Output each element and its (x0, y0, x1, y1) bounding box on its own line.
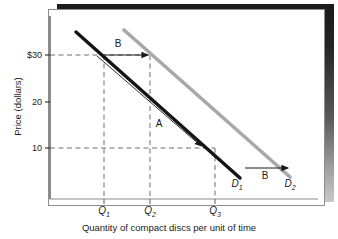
y-axis-title: Price (dollars) (12, 52, 23, 162)
x-tick-label-q3-sub: 3 (217, 211, 221, 218)
curve-label-d1: D1 (231, 178, 242, 191)
annotation-label-b-lower: B (262, 170, 269, 181)
demand-curve-d2 (124, 30, 290, 177)
x-tick-label-q3-text: Q (209, 205, 217, 216)
x-tick-label-q2: Q2 (144, 205, 156, 218)
curve-label-d2: D2 (284, 178, 295, 191)
x-axis-ticks (104, 199, 215, 204)
curve-label-d1-sub: 1 (239, 184, 243, 191)
demand-shift-figure: $30 20 10 Q1 Q2 Q3 D1 D2 B A B Price (do… (0, 0, 338, 239)
annotation-label-b-upper: B (115, 38, 122, 49)
x-tick-label-q2-sub: 2 (152, 211, 156, 218)
x-tick-label-q1: Q1 (98, 205, 110, 218)
x-tick-label-q1-text: Q (98, 205, 106, 216)
x-tick-label-q3: Q3 (209, 205, 221, 218)
x-tick-label-q2-text: Q (144, 205, 152, 216)
demand-curve-d1 (76, 32, 240, 178)
dashed-guide-lines (50, 55, 215, 199)
y-axis-ticks (45, 55, 50, 148)
x-tick-label-q1-sub: 1 (106, 211, 110, 218)
x-axis-title: Quantity of compact discs per unit of ti… (0, 222, 338, 233)
annotation-label-a: A (156, 118, 163, 129)
chart-graphics (0, 0, 338, 239)
annotation-arrow-a (97, 56, 201, 146)
curve-label-d2-sub: 2 (292, 184, 296, 191)
